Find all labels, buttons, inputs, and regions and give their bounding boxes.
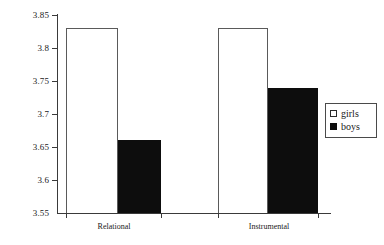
x-axis-group-label-instrumental: Instrumental — [220, 222, 318, 232]
y-axis-tick-mark — [52, 114, 57, 115]
legend: girls boys — [325, 103, 377, 138]
y-axis-tick-label: 3.55 — [0, 209, 49, 218]
legend-label-girls: girls — [341, 108, 359, 119]
y-axis-tick-label: 3.75 — [0, 77, 49, 86]
y-axis-tick-3-60: 3.6 — [0, 176, 49, 185]
y-axis-tick-3-85: 3.85 — [0, 11, 49, 20]
bar-girls-relational — [66, 28, 118, 214]
legend-swatch-open-square-icon — [330, 110, 337, 117]
x-axis-tick-mark — [66, 213, 67, 218]
y-axis-line — [57, 14, 58, 214]
y-axis-tick-mark — [52, 48, 57, 49]
bar-chart: 3.85 3.8 3.75 3.7 3.65 3.6 3.55 Relation… — [0, 0, 384, 245]
y-axis-tick-mark — [52, 15, 57, 16]
y-axis-tick-3-55: 3.55 — [0, 209, 49, 218]
x-axis-tick-mark — [318, 213, 319, 218]
y-axis-tick-label: 3.7 — [0, 110, 49, 119]
y-axis-tick-3-75: 3.75 — [0, 77, 49, 86]
x-axis-tick-mark — [161, 213, 162, 218]
y-axis-tick-label: 3.85 — [0, 11, 49, 20]
y-axis-tick-mark — [52, 81, 57, 82]
y-axis-tick-label: 3.8 — [0, 44, 49, 53]
legend-item-girls: girls — [330, 107, 372, 120]
legend-swatch-filled-square-icon — [330, 123, 337, 130]
y-axis-tick-3-65: 3.65 — [0, 143, 49, 152]
y-axis-tick-mark — [52, 147, 57, 148]
bar-girls-instrumental — [218, 28, 268, 214]
y-axis-tick-mark — [52, 180, 57, 181]
bar-boys-instrumental — [268, 88, 318, 214]
y-axis-tick-3-70: 3.7 — [0, 110, 49, 119]
x-axis-tick-mark — [218, 213, 219, 218]
x-axis-group-label-relational: Relational — [68, 222, 160, 232]
x-axis-line — [57, 213, 331, 214]
legend-item-boys: boys — [330, 120, 372, 133]
y-axis-tick-label: 3.65 — [0, 143, 49, 152]
y-axis-tick-3-80: 3.8 — [0, 44, 49, 53]
bar-boys-relational — [118, 140, 161, 214]
y-axis-tick-label: 3.6 — [0, 176, 49, 185]
legend-label-boys: boys — [341, 121, 360, 132]
